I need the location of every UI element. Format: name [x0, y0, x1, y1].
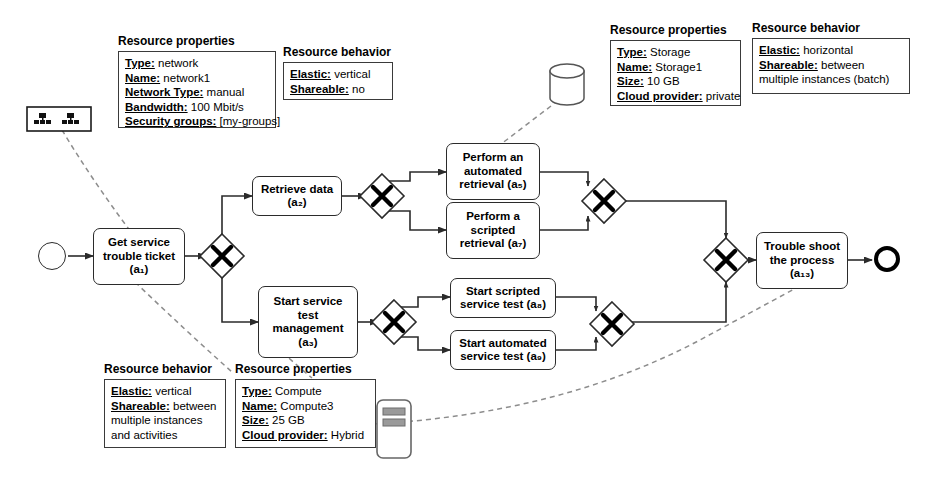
task-a7[interactable]: Perform a scripted retrieval (a₇)	[446, 202, 540, 259]
task-a7-line2: scripted	[460, 224, 527, 238]
note-storage-behavior: Elastic: horizontal Shareable: between m…	[752, 38, 910, 94]
exclusive-gateway-icon	[702, 236, 750, 284]
note-line: Name: network1	[125, 71, 269, 86]
start-event[interactable]	[38, 242, 66, 270]
note-line: Size: 25 GB	[242, 413, 369, 428]
note-title-network-behavior: Resource behavior	[283, 45, 391, 59]
note-line: multiple instances (batch)	[759, 72, 903, 87]
exclusive-gateway-icon	[588, 300, 636, 348]
note-line: multiple instances	[111, 413, 219, 428]
note-line: Security groups: [my-groups]	[125, 114, 269, 129]
task-a13-line2: the process	[764, 254, 840, 268]
network-icon-glyph	[26, 106, 92, 132]
note-line: Shareable: between	[759, 58, 903, 73]
note-line: Size: 10 GB	[617, 74, 734, 89]
task-a3[interactable]: Start service test management (a₃)	[258, 286, 358, 358]
note-compute-behavior: Elastic: vertical Shareable: between mul…	[104, 379, 226, 448]
task-a13[interactable]: Trouble shoot the process (a₁₃)	[756, 232, 848, 289]
task-a3-line1: Start service	[273, 295, 344, 309]
exclusive-gateway-icon	[370, 298, 418, 346]
note-title-compute-properties: Resource properties	[235, 362, 352, 376]
assoc-compute-to-a13	[372, 286, 800, 424]
note-storage-properties: Type: Storage Name: Storage1 Size: 10 GB…	[610, 40, 741, 106]
exclusive-gateway-icon	[580, 177, 628, 225]
note-line: and activities	[111, 428, 219, 443]
gateway-split-test[interactable]	[370, 298, 418, 346]
note-line: Elastic: vertical	[111, 384, 219, 399]
gateway-split-retrieve[interactable]	[358, 172, 406, 220]
database-cylinder-icon[interactable]	[540, 58, 594, 112]
note-line: Cloud provider: Hybrid	[242, 428, 369, 443]
task-a8[interactable]: Start scripted service test (a₈)	[450, 278, 556, 318]
note-line: Type: network	[125, 56, 269, 71]
gateway-merge-test[interactable]	[588, 300, 636, 348]
task-a1-line1: Get service	[103, 236, 175, 250]
task-a1[interactable]: Get service trouble ticket (a₁)	[93, 228, 185, 285]
assoc-a1-to-compute-note	[135, 282, 232, 372]
note-title-network-properties: Resource properties	[118, 34, 235, 48]
task-a3-line2: test	[273, 309, 344, 323]
exclusive-gateway-icon	[358, 172, 406, 220]
note-line: Name: Storage1	[617, 60, 734, 75]
task-a13-line1: Trouble shoot	[764, 240, 840, 254]
task-a1-line3: (a₁)	[103, 263, 175, 277]
task-a7-line3: retrieval (a₇)	[460, 237, 527, 251]
database-cylinder-glyph	[540, 58, 594, 112]
server-icon-glyph	[374, 398, 414, 460]
note-title-compute-behavior: Resource behavior	[104, 362, 212, 376]
task-a3-line3: management	[273, 322, 344, 336]
note-network-properties: Type: network Name: network1 Network Typ…	[118, 51, 276, 128]
note-line: Network Type: manual	[125, 85, 269, 100]
note-title-storage-behavior: Resource behavior	[752, 21, 860, 35]
network-icon[interactable]	[26, 106, 92, 132]
end-event[interactable]	[874, 246, 900, 272]
note-line: Shareable: between	[111, 399, 219, 414]
note-line: Elastic: vertical	[290, 67, 386, 82]
server-icon[interactable]	[374, 398, 414, 460]
task-a9-line1: Start automated	[459, 337, 547, 351]
task-a2-line2: (a₂)	[261, 196, 333, 210]
diagram-canvas: Resource properties Type: network Name: …	[0, 0, 940, 482]
task-a2-line1: Retrieve data	[261, 183, 333, 197]
gateway-split-main[interactable]	[198, 232, 246, 280]
note-line: Shareable: no	[290, 82, 386, 97]
task-a8-line2: service test (a₈)	[460, 298, 546, 312]
assoc-network-to-a1	[62, 130, 131, 232]
gateway-merge-retrieve[interactable]	[580, 177, 628, 225]
task-a5-line1: Perform an	[459, 151, 526, 165]
task-a9[interactable]: Start automated service test (a₉)	[450, 330, 556, 370]
note-network-behavior: Elastic: vertical Shareable: no	[283, 62, 393, 100]
note-line: Type: Storage	[617, 45, 734, 60]
note-line: Type: Compute	[242, 384, 369, 399]
task-a2[interactable]: Retrieve data (a₂)	[252, 176, 342, 216]
note-line: Name: Compute3	[242, 399, 369, 414]
task-a13-line3: (a₁₃)	[764, 267, 840, 281]
note-line: Cloud provider: private	[617, 89, 734, 104]
task-a5-line3: retrieval (a₅)	[459, 178, 526, 192]
note-title-storage-properties: Resource properties	[610, 23, 727, 37]
task-a3-line4: (a₃)	[273, 336, 344, 350]
note-compute-properties: Type: Compute Name: Compute3 Size: 25 GB…	[235, 379, 376, 448]
task-a1-line2: trouble ticket	[103, 250, 175, 264]
task-a5-line2: automated	[459, 165, 526, 179]
task-a9-line2: service test (a₉)	[459, 350, 547, 364]
gateway-merge-main[interactable]	[702, 236, 750, 284]
task-a8-line1: Start scripted	[460, 285, 546, 299]
exclusive-gateway-icon	[198, 232, 246, 280]
task-a7-line1: Perform a	[460, 210, 527, 224]
note-line: Bandwidth: 100 Mbit/s	[125, 100, 269, 115]
task-a5[interactable]: Perform an automated retrieval (a₅)	[446, 143, 540, 200]
note-line: Elastic: horizontal	[759, 43, 903, 58]
